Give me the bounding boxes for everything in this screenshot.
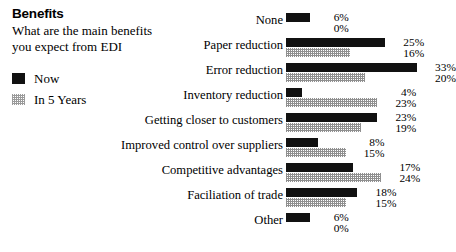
chart-row: Inventory reduction 4% 23%	[0, 87, 454, 112]
chart-row: None 6% 0%	[0, 12, 454, 37]
value-label-future: 24%	[399, 173, 420, 184]
bar-group: 6% 0%	[286, 212, 454, 237]
chart-row: Faciliation of trade 18% 15%	[0, 187, 454, 212]
chart-row: Getting closer to customers 23% 19%	[0, 112, 454, 137]
bar-now	[286, 113, 377, 122]
bar-now	[286, 88, 302, 97]
value-labels: 33% 20%	[422, 62, 456, 87]
bar-now	[286, 63, 417, 72]
value-labels: 23% 19%	[382, 112, 416, 137]
value-labels: 6% 0%	[315, 212, 349, 237]
bar-group: 18% 15%	[286, 187, 454, 212]
category-label: Paper reduction	[204, 39, 283, 52]
bar-group: 4% 23%	[286, 87, 454, 112]
value-labels: 17% 24%	[386, 162, 420, 187]
value-labels: 25% 16%	[390, 37, 424, 62]
category-label: Competitive advantages	[162, 164, 283, 177]
bar-chart-plot-area: None 6% 0% Paper reduction 25% 16% Error…	[0, 12, 454, 237]
value-label-future: 0%	[334, 223, 349, 234]
value-label-future: 23%	[395, 98, 416, 109]
value-label-future: 0%	[334, 23, 349, 34]
category-label: Inventory reduction	[183, 89, 283, 102]
chart-row: Paper reduction 25% 16%	[0, 37, 454, 62]
value-label-future: 15%	[364, 148, 385, 159]
bar-now	[286, 188, 357, 197]
bar-future	[286, 148, 346, 157]
chart-row: Other 6% 0%	[0, 212, 454, 237]
bar-group: 17% 24%	[286, 162, 454, 187]
value-labels: 8% 15%	[351, 137, 385, 162]
bar-future	[286, 198, 346, 207]
value-label-future: 20%	[435, 73, 456, 84]
bar-now	[286, 13, 310, 22]
bar-future	[286, 173, 381, 182]
category-label: Improved control over suppliers	[121, 139, 283, 152]
chart-row: Competitive advantages 17% 24%	[0, 162, 454, 187]
bar-group: 33% 20%	[286, 62, 454, 87]
category-label: None	[256, 14, 283, 27]
value-labels: 6% 0%	[315, 12, 349, 37]
bar-now	[286, 163, 353, 172]
value-label-future: 16%	[403, 48, 424, 59]
category-label: Faciliation of trade	[187, 189, 283, 202]
chart-row: Improved control over suppliers 8% 15%	[0, 137, 454, 162]
bar-group: 8% 15%	[286, 137, 454, 162]
value-labels: 18% 15%	[362, 187, 396, 212]
value-label-future: 15%	[376, 198, 397, 209]
bar-now	[286, 38, 385, 47]
value-labels: 4% 23%	[382, 87, 416, 112]
bar-group: 25% 16%	[286, 37, 454, 62]
bar-future	[286, 98, 377, 107]
category-label: Other	[254, 214, 283, 227]
bar-future	[286, 123, 361, 132]
bar-now	[286, 138, 318, 147]
bar-future	[286, 73, 365, 82]
value-label-future: 19%	[395, 123, 416, 134]
bar-now	[286, 213, 310, 222]
category-label: Error reduction	[206, 64, 283, 77]
bar-future	[286, 48, 350, 57]
chart-row: Error reduction 33% 20%	[0, 62, 454, 87]
bar-group: 23% 19%	[286, 112, 454, 137]
category-label: Getting closer to customers	[145, 114, 283, 127]
bar-group: 6% 0%	[286, 12, 454, 37]
